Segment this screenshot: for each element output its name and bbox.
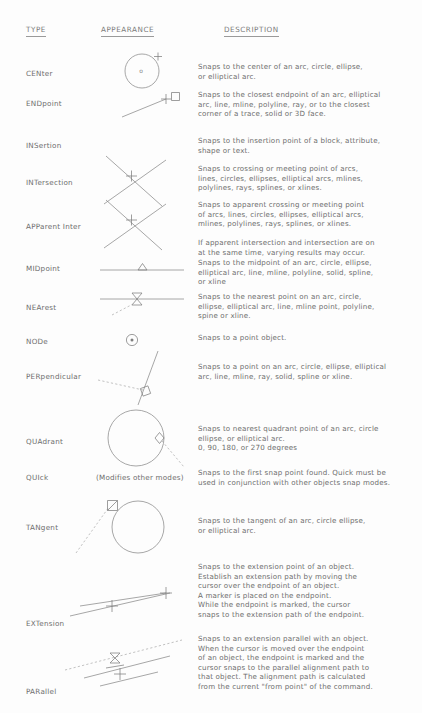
row-type-quadrant: QUAdrant	[26, 437, 63, 446]
row-description-apparent-inter: Snaps to apparent crossing or meeting po…	[198, 200, 420, 229]
parallel-snap-lines-icon	[62, 632, 192, 692]
center-snap-circle-icon: o	[118, 48, 182, 92]
column-header-appearance: APPEARANCE	[101, 25, 154, 37]
row-description-perpendicular: Snaps to a point on an arc, circle, elli…	[198, 362, 420, 381]
apparent-intersection-snap-cross-icon	[100, 196, 176, 254]
column-header-type-underline	[26, 36, 46, 37]
quadrant-snap-diamond-icon	[96, 405, 188, 475]
row-description-node: Snaps to a point object.	[198, 333, 420, 343]
row-type-endpoint: ENDpoint	[26, 99, 62, 108]
row-type-insertion: INSertion	[26, 141, 61, 150]
row-type-node: NODe	[26, 337, 48, 346]
row-description-intersection: Snaps to crossing or meeting point of ar…	[198, 164, 420, 193]
row-type-midpoint: MIDpoint	[26, 264, 60, 273]
row-type-apparent-inter: APParent Inter	[26, 222, 81, 231]
perpendicular-snap-square-icon	[96, 347, 182, 409]
row-type-nearest: NEArest	[26, 303, 56, 312]
row-description-apparent-inter-extra: If apparent intersection and intersectio…	[198, 238, 420, 257]
svg-text:o: o	[139, 67, 143, 74]
column-header-type-label: TYPE	[26, 25, 46, 34]
row-description-insertion: Snaps to the insertion point of a block,…	[198, 136, 420, 155]
intersection-snap-cross-icon	[100, 152, 176, 210]
endpoint-snap-square-icon	[118, 88, 188, 120]
row-description-endpoint: Snaps to the closest endpoint of an arc,…	[198, 90, 420, 119]
row-description-center: Snaps to the center of an arc, circle, e…	[198, 62, 420, 81]
tangent-snap-circle-icon	[72, 491, 188, 561]
row-description-quadrant: Snaps to nearest quadrant point of an ar…	[198, 424, 420, 453]
row-description-parallel: Snaps to an extension parallel with an o…	[198, 634, 420, 692]
row-description-extension: Snaps to the extension point of an objec…	[198, 562, 420, 620]
nearest-snap-hourglass-icon	[98, 283, 188, 319]
column-header-type: TYPE	[26, 25, 46, 37]
row-quick-modifier-note: (Modifies other modes)	[96, 473, 184, 482]
extension-snap-line-icon	[66, 584, 190, 628]
row-description-quick: Snaps to the first snap point found. Qui…	[198, 468, 420, 487]
row-type-extension: EXTension	[26, 619, 64, 628]
row-description-nearest: Snaps to the nearest point on an arc, ci…	[198, 292, 420, 321]
column-header-appearance-label: APPEARANCE	[101, 25, 154, 34]
node-snap-dot-circle-icon	[122, 330, 148, 350]
row-type-perpendicular: PERpendicular	[26, 372, 81, 381]
column-header-description-label: DESCRIPTION	[224, 25, 279, 34]
row-type-parallel: PARallel	[26, 687, 56, 696]
row-description-tangent: Snaps to the tangent of an arc, circle e…	[198, 516, 420, 535]
row-type-tangent: TANgent	[26, 523, 58, 532]
row-type-quick: QUIck	[26, 473, 48, 482]
row-description-midpoint: Snaps to the midpoint of an arc, circle,…	[198, 258, 420, 287]
midpoint-snap-triangle-icon	[98, 255, 188, 279]
column-header-description-underline	[224, 36, 279, 37]
column-header-appearance-underline	[101, 36, 154, 37]
reference-sheet: TYPE APPEARANCE DESCRIPTION CENter o Sna…	[0, 0, 422, 713]
row-type-center: CENter	[26, 69, 53, 78]
column-header-description: DESCRIPTION	[224, 25, 279, 37]
row-type-intersection: INTersection	[26, 178, 73, 187]
